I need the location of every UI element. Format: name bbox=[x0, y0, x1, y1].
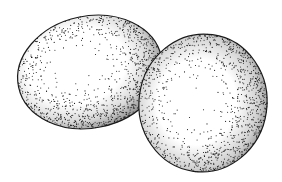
eggs-drawing bbox=[0, 0, 282, 182]
egg-illustration bbox=[0, 0, 282, 182]
